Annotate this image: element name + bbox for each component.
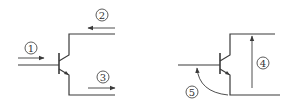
right-emitter-wire: [220, 69, 280, 95]
left-emitter-arrow-icon: [64, 71, 69, 75]
svg-text:4: 4: [260, 58, 266, 69]
svg-text:3: 3: [100, 72, 106, 83]
label-4: 4: [257, 57, 269, 69]
label-3: 3: [97, 71, 109, 83]
left-transistor-circuit: 1 2 3: [18, 9, 115, 95]
right-emitter-arrow-icon: [225, 71, 230, 75]
left-collector-wire: [59, 34, 115, 61]
diagram-canvas: 1 2 3 4 5: [0, 0, 290, 105]
right-transistor-circuit: 4 5: [178, 34, 280, 98]
label-1: 1: [25, 42, 37, 54]
label-2: 2: [96, 9, 108, 21]
svg-text:2: 2: [99, 10, 105, 21]
svg-text:1: 1: [28, 43, 34, 54]
right-collector-wire: [220, 34, 275, 61]
svg-text:5: 5: [189, 87, 195, 98]
base-emitter-voltage-arrow: [197, 68, 228, 95]
label-5: 5: [186, 86, 198, 98]
